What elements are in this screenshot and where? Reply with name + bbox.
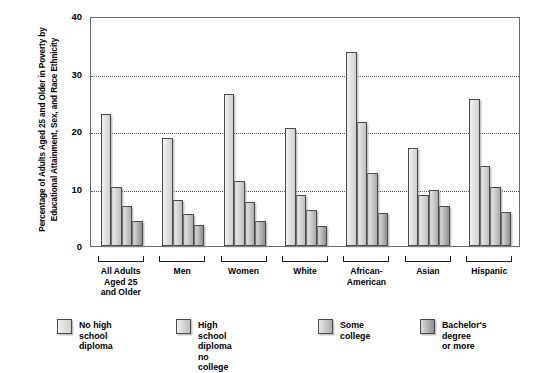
bar-0-0 <box>101 114 112 246</box>
y-tick-10: 10 <box>44 184 82 195</box>
series-0-swatch <box>57 319 72 334</box>
bar-1-2 <box>183 214 194 246</box>
y-tick-20: 20 <box>44 126 82 137</box>
category-bracket-5 <box>405 256 451 262</box>
y-tick-40: 40 <box>44 11 82 22</box>
series-1-swatch <box>176 319 191 334</box>
plot-area <box>90 17 520 247</box>
bar-3-0 <box>285 128 296 246</box>
bar-2-1 <box>234 181 245 246</box>
bar-6-0 <box>469 99 480 246</box>
category-bracket-3 <box>282 256 328 262</box>
bar-3-3 <box>317 226 328 246</box>
category-bracket-2 <box>221 256 267 262</box>
bar-2-3 <box>255 221 266 246</box>
category-label-6: Hispanic <box>446 266 532 277</box>
gridline-10 <box>91 191 519 192</box>
legend-label-1: High school diploma no college <box>198 320 232 373</box>
y-tick-0: 0 <box>44 241 82 252</box>
bar-5-0 <box>408 148 419 246</box>
bar-5-1 <box>418 195 429 246</box>
bar-5-3 <box>439 206 450 246</box>
category-bracket-1 <box>159 256 205 262</box>
bar-0-3 <box>132 221 143 246</box>
gridline-30 <box>91 76 519 77</box>
bar-6-1 <box>480 166 491 247</box>
bar-4-0 <box>346 52 357 246</box>
bar-4-1 <box>357 122 368 246</box>
bar-3-1 <box>296 195 307 246</box>
category-bracket-6 <box>466 256 512 262</box>
y-tick-30: 30 <box>44 69 82 80</box>
bar-6-2 <box>490 187 501 246</box>
bar-1-0 <box>162 138 173 246</box>
bar-3-2 <box>306 210 317 246</box>
legend-label-0: No high school diploma <box>79 320 113 352</box>
chart-legend: No high school diplomaHigh school diplom… <box>0 318 555 363</box>
bar-2-0 <box>224 94 235 246</box>
bar-5-2 <box>429 190 440 246</box>
series-3-swatch <box>420 319 435 334</box>
bar-2-2 <box>245 202 256 246</box>
category-bracket-4 <box>343 256 389 262</box>
legend-label-3: Bachelor's degree or more <box>442 320 487 352</box>
series-2-swatch <box>318 319 333 334</box>
bar-1-1 <box>173 200 184 246</box>
bar-0-1 <box>111 187 122 246</box>
bar-0-2 <box>122 206 133 246</box>
bar-4-2 <box>367 173 378 246</box>
legend-label-2: Some college <box>340 320 370 341</box>
bar-4-3 <box>378 213 389 246</box>
category-bracket-0 <box>98 256 144 262</box>
bar-6-3 <box>501 212 512 247</box>
bar-1-3 <box>194 225 205 246</box>
gridline-20 <box>91 133 519 134</box>
